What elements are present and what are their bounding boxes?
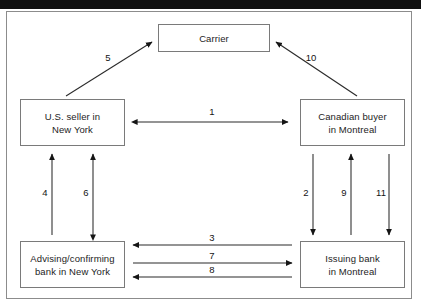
edge-label-3: 3 (205, 232, 219, 243)
scan-artifact-bar (0, 0, 421, 9)
node-carrier[interactable]: Carrier (158, 24, 270, 52)
edge-label-8: 8 (205, 264, 219, 275)
edge-label-9: 9 (337, 187, 351, 198)
diagram-page: Carrier U.S. seller in New York Canadian… (0, 0, 421, 306)
node-advising-confirming-bank[interactable]: Advising/confirming bank in New York (20, 241, 125, 288)
edge-label-6: 6 (79, 187, 93, 198)
node-us-seller-line2: New York (45, 123, 100, 136)
node-carrier-label: Carrier (199, 32, 229, 45)
node-issuing-bank-line2: in Montreal (325, 265, 380, 278)
edge-label-7: 7 (205, 250, 219, 261)
node-advising-confirming-bank-line2: bank in New York (30, 265, 114, 278)
edge-label-11: 11 (373, 187, 389, 198)
node-canadian-buyer-line1: Canadian buyer (318, 110, 386, 123)
node-us-seller[interactable]: U.S. seller in New York (20, 99, 125, 146)
node-issuing-bank-line1: Issuing bank (325, 252, 380, 265)
edge-label-10: 10 (303, 52, 319, 63)
node-us-seller-line1: U.S. seller in (45, 110, 100, 123)
node-advising-confirming-bank-line1: Advising/confirming (30, 252, 114, 265)
node-canadian-buyer-line2: in Montreal (318, 123, 386, 136)
node-canadian-buyer[interactable]: Canadian buyer in Montreal (300, 99, 405, 146)
edge-label-4: 4 (38, 187, 52, 198)
edge-label-2: 2 (299, 187, 313, 198)
edge-label-5: 5 (101, 52, 115, 63)
edge-label-1: 1 (205, 106, 219, 117)
node-issuing-bank[interactable]: Issuing bank in Montreal (300, 241, 405, 288)
